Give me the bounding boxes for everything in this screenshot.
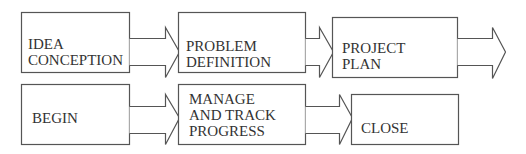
step-label-close: CLOSE — [361, 120, 409, 136]
label-line: PROBLEM — [186, 38, 271, 54]
step-label-project-plan: PROJECT PLAN — [342, 40, 405, 72]
label-line: BEGIN — [32, 110, 78, 126]
label-line: PLAN — [342, 56, 405, 72]
arrow-right-icon — [458, 28, 506, 79]
arrow-right-icon — [130, 28, 180, 78]
step-label-idea-conception: IDEA CONCEPTION — [28, 36, 123, 68]
arrow-right-icon — [306, 28, 334, 78]
label-line: IDEA — [28, 36, 123, 52]
label-line: PROGRESS — [189, 123, 276, 139]
label-line: MANAGE — [189, 91, 276, 107]
arrow-right-icon — [130, 95, 180, 145]
step-label-problem-definition: PROBLEM DEFINITION — [186, 38, 271, 70]
label-line: CONCEPTION — [28, 52, 123, 68]
arrow-right-icon — [306, 95, 353, 145]
label-line: CLOSE — [361, 120, 409, 136]
label-line: AND TRACK — [189, 107, 276, 123]
step-label-manage-and-track-progress: MANAGE AND TRACK PROGRESS — [189, 91, 276, 139]
label-line: PROJECT — [342, 40, 405, 56]
step-label-begin: BEGIN — [32, 110, 78, 126]
label-line: DEFINITION — [186, 54, 271, 70]
